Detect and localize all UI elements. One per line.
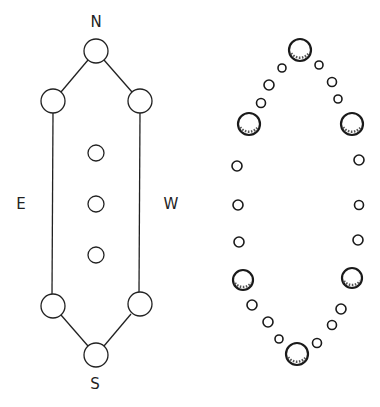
north-label: N [90,13,101,31]
south-label: S [90,375,100,393]
outer-node [128,89,152,113]
right-stone-plan [232,39,364,365]
small-stone [315,61,323,69]
small-stone [354,155,364,165]
edge-sw-s [104,314,131,346]
small-stone [278,64,286,72]
inner-nodes [88,145,104,263]
outer-node [128,292,152,316]
small-stone [353,235,363,245]
inner-node [88,247,104,263]
inner-node [88,196,104,212]
left-schematic-plan [41,39,152,367]
small-stone [334,95,342,103]
outer-node [84,343,108,367]
outer-node [84,39,108,63]
small-stone [233,200,243,210]
small-stone [247,300,257,310]
small-stone [275,335,283,343]
small-stone [234,237,244,247]
large-stones [233,39,363,365]
east-label: E [16,195,25,213]
small-stone [264,80,274,90]
inner-node [88,145,104,161]
outer-node [41,89,65,113]
small-stone [328,78,337,87]
west-label: W [164,195,179,213]
small-stone [355,201,364,210]
outer-node [41,294,65,318]
small-stones [232,61,364,348]
edge-n-nw [104,60,132,92]
edge-n-ne [61,60,88,92]
small-stone [232,161,242,171]
small-stone [336,304,346,314]
small-stone [257,99,266,108]
edge-west-side [139,113,140,292]
stone-circle-diagram: N E W S [0,0,380,407]
edge-east-side [52,113,53,294]
small-stone [328,321,337,330]
small-stone [313,339,322,348]
edge-se-s [61,315,88,346]
small-stone [263,317,273,327]
